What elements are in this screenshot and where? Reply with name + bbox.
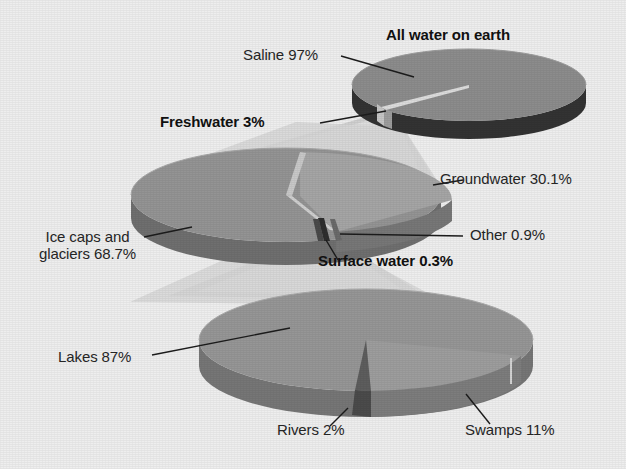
pie-freshwater [131,148,452,265]
label-other: Other 0.9% [470,226,545,243]
slice-freshwater-side-2 [384,109,392,129]
label-ice-caps: Ice caps and glaciers 68.7% [30,228,145,263]
label-lakes: Lakes 87% [58,348,131,365]
label-ice-caps-line1: Ice caps and [46,228,130,245]
water-distribution-figure: All water on earth Saline 97% Freshwater… [0,0,626,469]
pie-all-water-on-earth [352,49,586,139]
slice-rivers-side [352,390,371,417]
pie-surface-water [199,289,533,417]
label-swamps: Swamps 11% [465,421,555,438]
label-saline: Saline 97% [243,46,318,63]
label-ice-caps-line2: glaciers 68.7% [39,245,136,262]
label-groundwater: Groundwater 30.1% [440,170,572,187]
label-rivers: Rivers 2% [277,421,344,438]
label-surface-water: Surface water 0.3% [318,252,453,269]
chart-title: All water on earth [386,26,510,43]
label-freshwater: Freshwater 3% [160,113,265,130]
